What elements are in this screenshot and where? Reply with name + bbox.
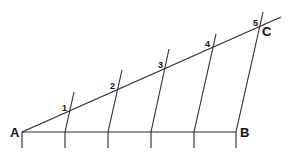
mark-label-3: 3 <box>158 60 163 70</box>
label-c: C <box>262 24 272 39</box>
mark-label-5: 5 <box>253 18 258 28</box>
construction-diagram: A B C 1 2 3 4 5 <box>0 0 288 158</box>
mark-label-2: 2 <box>110 81 115 91</box>
parallel-line-2 <box>108 70 122 132</box>
mark-label-1: 1 <box>62 103 67 113</box>
mark-label-4: 4 <box>205 39 210 49</box>
label-b: B <box>240 125 249 140</box>
ray-ac <box>22 17 281 132</box>
segment-bc <box>236 12 263 132</box>
label-a: A <box>10 125 20 140</box>
